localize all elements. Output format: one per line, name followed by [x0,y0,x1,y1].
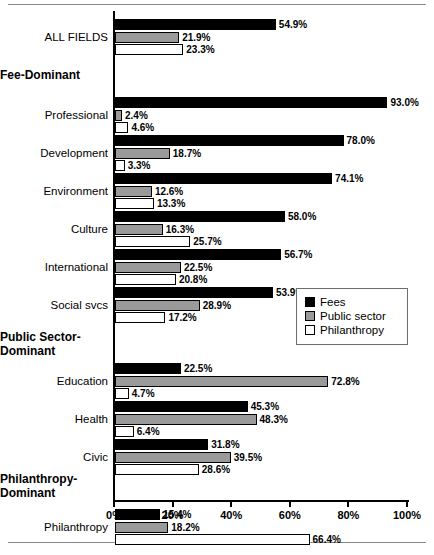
bar-fees [115,287,273,298]
bar-fees [115,401,248,412]
legend-item: Public sector [305,310,401,322]
category-label: Education [0,375,108,387]
category-label: Development [0,147,108,159]
group-header-line: Dominant [0,487,108,501]
bar-value-label: 3.3% [128,160,151,171]
chart-legend: FeesPublic sectorPhilanthropy [296,288,408,345]
category-label: Culture [0,223,108,235]
bar-fees [115,135,344,146]
bar-fees [115,97,387,108]
bar-value-label: 22.5% [184,363,212,374]
bar-value-label: 6.4% [137,426,160,437]
bar-value-label: 74.1% [335,173,363,184]
bar-value-label: 66.4% [313,534,341,545]
bar-value-label: 78.0% [347,135,375,146]
legend-item: Philanthropy [305,324,401,336]
bar-value-label: 22.5% [184,262,212,273]
category-label: Social svcs [0,299,108,311]
bar-fees [115,19,276,30]
bar-phil [115,274,176,285]
bar-value-label: 54.9% [279,19,307,30]
bar-value-label: 31.8% [211,439,239,450]
group-header-line: Fee-Dominant [0,69,108,83]
bar-value-label: 45.3% [251,401,279,412]
x-axis-tick-label: 60% [279,509,301,521]
bar-phil [115,534,310,545]
bar-public [115,186,152,197]
x-axis-tick-label: 80% [337,509,359,521]
group-header: Philanthropy-Dominant [0,473,108,501]
bar-phil [115,122,128,133]
x-axis-tick-mark [347,502,349,507]
group-header-line: Dominant [0,345,108,359]
bar-phil [115,464,199,475]
bar-value-label: 58.0% [288,211,316,222]
x-axis-line [113,500,409,502]
bar-public [115,300,200,311]
x-axis-tick-mark [172,502,174,507]
bar-value-label: 23.3% [186,44,214,55]
legend-label: Fees [320,296,346,308]
x-axis-tick-label: 0% [106,509,122,521]
bar-phil [115,44,183,55]
legend-label: Public sector [320,310,386,322]
top-divider-rule [8,4,426,5]
bar-public [115,224,163,235]
bar-value-label: 2.4% [125,110,148,121]
category-label: Civic [0,451,108,463]
category-label: Environment [0,185,108,197]
bar-value-label: 72.8% [331,376,359,387]
bar-fees [115,249,281,260]
bar-value-label: 48.3% [260,414,288,425]
legend-swatch-public [305,311,315,321]
bar-phil [115,426,134,437]
bar-public [115,262,181,273]
x-axis-tick-mark [230,502,232,507]
bar-phil [115,312,165,323]
bar-chart-plot-area: ALL FIELDS54.9%21.9%23.3%Fee-DominantPro… [0,11,434,511]
category-label: Professional [0,109,108,121]
bar-public [115,522,168,533]
bar-value-label: 12.6% [155,186,183,197]
bar-value-label: 20.8% [179,274,207,285]
bar-value-label: 93.0% [390,97,418,108]
category-label: Health [0,413,108,425]
bar-fees [115,173,332,184]
category-label: ALL FIELDS [0,31,108,43]
bar-public [115,110,122,121]
category-label: International [0,261,108,273]
x-axis-tick-mark [289,502,291,507]
bar-public [115,452,231,463]
bar-phil [115,236,190,247]
x-axis-tick-mark [406,502,408,507]
bar-fees [115,439,208,450]
bar-public [115,414,257,425]
bar-value-label: 56.7% [284,249,312,260]
legend-swatch-phil [305,325,315,335]
bar-value-label: 4.7% [132,388,155,399]
bar-value-label: 16.3% [166,224,194,235]
bar-value-label: 39.5% [234,452,262,463]
bar-fees [115,211,285,222]
bar-public [115,32,179,43]
bar-value-label: 28.6% [202,464,230,475]
bar-value-label: 28.9% [203,300,231,311]
bar-public [115,376,328,387]
group-header: Public Sector-Dominant [0,331,108,359]
x-axis-tick-label: 40% [220,509,242,521]
legend-label: Philanthropy [320,324,384,336]
bar-value-label: 18.2% [171,522,199,533]
legend-swatch-fees [305,297,315,307]
bar-value-label: 25.7% [193,236,221,247]
legend-item: Fees [305,296,401,308]
bar-phil [115,198,154,209]
x-axis-tick-label: 100% [393,509,421,521]
group-header-line: Philanthropy- [0,473,108,487]
bar-value-label: 21.9% [182,32,210,43]
group-header-line: Public Sector- [0,331,108,345]
x-axis-tick-mark [113,502,115,507]
bar-value-label: 4.6% [131,122,154,133]
category-label: Philanthropy [0,521,108,533]
bar-fees [115,363,181,374]
bar-value-label: 13.3% [157,198,185,209]
